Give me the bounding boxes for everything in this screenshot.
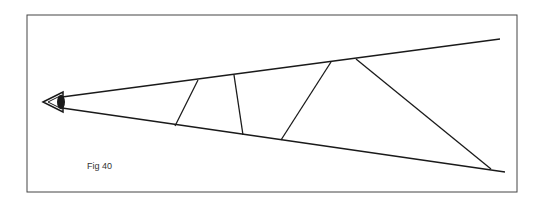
cross-line-3 (356, 59, 491, 169)
rays (62, 39, 505, 172)
upper-ray (62, 39, 500, 97)
figure-caption: Fig 40 (87, 161, 112, 171)
eye-icon (43, 92, 65, 112)
lower-ray (62, 108, 505, 172)
cross-line-0 (175, 80, 198, 126)
cross-line-1 (234, 75, 243, 135)
cross-line-2 (281, 62, 331, 140)
perspective-diagram (0, 0, 541, 207)
